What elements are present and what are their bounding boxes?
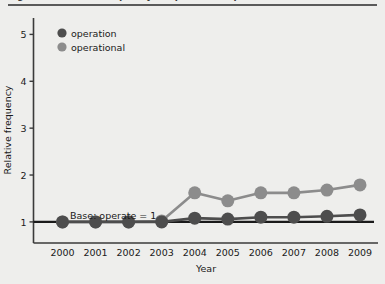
y-tick-label: 1 [20,217,26,228]
legend-label-operation: operation [71,28,117,39]
x-tick-label: 2000 [50,247,74,258]
data-point [155,215,168,228]
y-axis-title: Relative frequency [2,85,13,174]
x-tick-label: 2009 [348,247,372,258]
data-point [287,211,300,224]
y-tick-label: 2 [20,170,26,181]
baseline-annotation: Base: operate = 1 [70,210,156,221]
x-tick-label: 2006 [249,247,273,258]
x-axis-ticks: 2000200120022003200420052006200720082009 [50,247,372,258]
data-point [254,186,267,199]
x-tick-label: 2004 [183,247,207,258]
data-point [56,215,69,228]
data-point [221,194,234,207]
data-point [287,186,300,199]
x-tick-label: 2001 [83,247,107,258]
data-point [188,186,201,199]
y-tick-label: 3 [20,123,26,134]
x-tick-label: 2002 [117,247,141,258]
y-tick-label: 5 [20,29,26,40]
x-tick-label: 2003 [150,247,174,258]
data-point [188,212,201,225]
legend-marker-operation [57,28,66,37]
legend-marker-operational [57,42,66,51]
legend-label-operational: operational [71,42,125,53]
x-axis-title: Year [195,263,216,274]
y-axis-ticks: 12345 [20,29,33,228]
data-point [221,213,234,226]
data-point [354,208,367,221]
chart-plot: 12345 2000200120022003200420052006200720… [0,0,385,284]
x-tick-label: 2005 [216,247,240,258]
x-tick-label: 2007 [282,247,306,258]
figure-container: Figure 1. Relative frequency of operatio… [0,0,385,284]
data-point [320,184,333,197]
x-tick-label: 2008 [315,247,339,258]
data-point [254,211,267,224]
chart-legend: operationoperational [57,28,125,53]
y-tick-label: 4 [20,76,26,87]
data-point [320,210,333,223]
data-point [354,178,367,191]
